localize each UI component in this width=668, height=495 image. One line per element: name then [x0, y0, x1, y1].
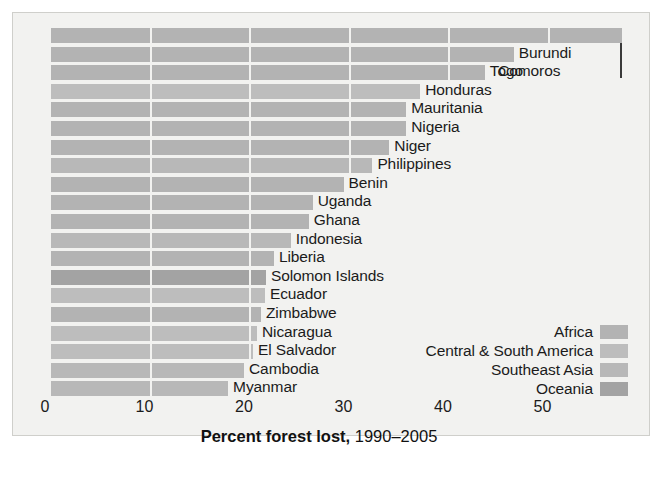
- bar-row: Zimbabwe: [51, 307, 641, 322]
- bar-zimbabwe: [51, 307, 261, 322]
- legend-label: Oceania: [536, 380, 600, 398]
- bar-row: Ecuador: [51, 288, 641, 303]
- bar-togo: [51, 65, 485, 80]
- bar-row: Burundi: [51, 47, 641, 62]
- legend-item-central-south-america: Central & South America: [390, 341, 628, 360]
- x-tick-label-30: 30: [335, 398, 353, 416]
- bar-row: Nigeria: [51, 121, 641, 136]
- x-axis-title: Percent forest lost, 1990–2005: [0, 427, 638, 446]
- legend-label: Africa: [554, 323, 600, 341]
- legend-label: Central & South America: [426, 342, 600, 360]
- bar-row: Indonesia: [51, 233, 641, 248]
- bar-mauritania: [51, 102, 406, 117]
- bar-label-liberia: Liberia: [279, 248, 325, 266]
- bar-row: Philippines: [51, 158, 641, 173]
- bar-label-myanmar: Myanmar: [233, 378, 297, 396]
- bar-label-niger: Niger: [394, 137, 431, 155]
- forest-loss-chart-figure: ComorosBurundiTogoHondurasMauritaniaNige…: [0, 0, 668, 495]
- bar-label-nicaragua: Nicaragua: [262, 323, 332, 341]
- bar-label-solomon-islands: Solomon Islands: [271, 267, 384, 285]
- legend-item-oceania: Oceania: [390, 379, 628, 398]
- chart-legend: AfricaCentral & South AmericaSoutheast A…: [390, 322, 628, 398]
- bar-row: Niger: [51, 140, 641, 155]
- bar-ghana: [51, 214, 309, 229]
- bar-nicaragua: [51, 326, 257, 341]
- legend-swatch: [600, 325, 628, 339]
- gridline: [150, 28, 152, 396]
- bar-ecuador: [51, 288, 265, 303]
- bar-label-benin: Benin: [349, 174, 388, 192]
- legend-swatch: [600, 382, 628, 396]
- bar-label-cambodia: Cambodia: [249, 360, 319, 378]
- bar-burundi: [51, 47, 514, 62]
- bar-row: Mauritania: [51, 102, 641, 117]
- legend-swatch: [600, 344, 628, 358]
- x-tick-label-50: 50: [534, 398, 552, 416]
- bar-indonesia: [51, 233, 291, 248]
- bar-label-indonesia: Indonesia: [296, 230, 362, 248]
- gridline: [249, 28, 251, 396]
- bar-solomon-islands: [51, 270, 266, 285]
- bar-row: Solomon Islands: [51, 270, 641, 285]
- x-tick-label-0: 0: [41, 398, 50, 416]
- bar-label-togo: Togo: [490, 62, 523, 80]
- legend-label: Southeast Asia: [491, 361, 600, 379]
- bar-philippines: [51, 158, 372, 173]
- bar-label-ecuador: Ecuador: [270, 285, 327, 303]
- bar-myanmar: [51, 381, 228, 396]
- bar-label-nigeria: Nigeria: [411, 118, 459, 136]
- bar-uganda: [51, 195, 313, 210]
- legend-item-africa: Africa: [390, 322, 628, 341]
- bar-row: Honduras: [51, 84, 641, 99]
- bar-comoros: [51, 28, 622, 43]
- bar-niger: [51, 140, 389, 155]
- legend-swatch: [600, 363, 628, 377]
- bar-cambodia: [51, 363, 244, 378]
- bar-label-el-salvador: El Salvador: [258, 341, 336, 359]
- comoros-leader-line: [620, 43, 622, 78]
- x-tick-label-40: 40: [434, 398, 452, 416]
- legend-item-southeast-asia: Southeast Asia: [390, 360, 628, 379]
- bar-row: Liberia: [51, 251, 641, 266]
- bar-honduras: [51, 84, 420, 99]
- x-axis-title-bold: Percent forest lost,: [201, 427, 350, 445]
- x-axis: 01020304050: [0, 398, 638, 424]
- bar-label-zimbabwe: Zimbabwe: [266, 304, 337, 322]
- bar-row: Benin: [51, 177, 641, 192]
- bar-label-honduras: Honduras: [425, 81, 491, 99]
- bar-row: Uganda: [51, 195, 641, 210]
- x-tick-label-10: 10: [136, 398, 154, 416]
- bar-label-ghana: Ghana: [314, 211, 360, 229]
- bar-label-philippines: Philippines: [377, 155, 451, 173]
- x-tick-label-20: 20: [235, 398, 253, 416]
- bar-nigeria: [51, 121, 406, 136]
- x-axis-title-range: 1990–2005: [350, 427, 437, 445]
- bar-liberia: [51, 251, 274, 266]
- bar-label-mauritania: Mauritania: [411, 99, 482, 117]
- bar-row: Ghana: [51, 214, 641, 229]
- bar-label-uganda: Uganda: [318, 192, 372, 210]
- bar-row: Comoros: [51, 28, 641, 43]
- bar-el-salvador: [51, 344, 253, 359]
- bar-benin: [51, 177, 344, 192]
- bar-label-burundi: Burundi: [519, 44, 572, 62]
